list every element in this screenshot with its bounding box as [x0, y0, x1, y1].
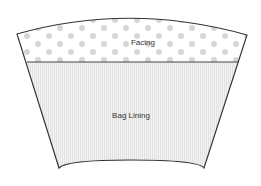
- bag-lining-label: Bag Lining: [112, 111, 150, 120]
- facing-label: Facing: [131, 38, 155, 47]
- pattern-piece-diagram: Facing Bag Lining: [0, 0, 261, 186]
